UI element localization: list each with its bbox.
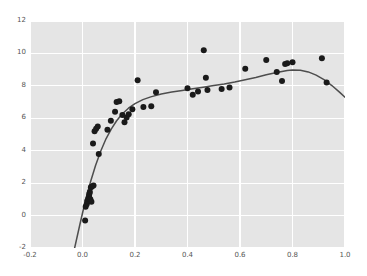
data-point [324, 80, 330, 86]
x-axis-tick-label: 0.6 [220, 252, 260, 259]
y-axis-tick-label: 12 [2, 17, 26, 24]
x-axis-tick-label: 0.0 [63, 252, 103, 259]
x-axis-tick-label: 0.2 [115, 252, 155, 259]
data-point [185, 85, 191, 91]
data-point [108, 118, 114, 124]
data-point [112, 109, 118, 115]
data-point [227, 84, 233, 90]
data-point [190, 92, 196, 98]
data-point [116, 98, 122, 104]
data-point [290, 59, 296, 65]
data-point [96, 151, 102, 157]
data-point [90, 140, 96, 146]
data-point [95, 123, 101, 129]
scatter-plot-figure: -2024681012 -0.20.00.20.40.60.81.0 [0, 0, 367, 276]
y-axis-tick-label: -2 [2, 244, 26, 251]
data-point [274, 69, 280, 75]
y-axis-tick-label: 4 [2, 147, 26, 154]
data-point [279, 78, 285, 84]
data-point [203, 75, 209, 81]
data-point [82, 217, 88, 223]
data-point [148, 103, 154, 109]
data-point [319, 55, 325, 61]
data-point [201, 47, 207, 53]
data-point [204, 87, 210, 93]
data-points-layer [30, 21, 345, 248]
data-point [263, 57, 269, 63]
data-point [129, 106, 135, 112]
x-axis-tick-label: 1.0 [325, 252, 365, 259]
y-axis-tick-label: 2 [2, 179, 26, 186]
data-point [284, 60, 290, 66]
data-point [104, 127, 110, 133]
x-axis-tick-label: 0.4 [168, 252, 208, 259]
data-point [135, 77, 141, 83]
data-point [219, 86, 225, 92]
y-axis-tick-label: 10 [2, 49, 26, 56]
y-axis-tick-label: 6 [2, 114, 26, 121]
data-point [195, 89, 201, 95]
data-point [242, 66, 248, 72]
data-point [91, 183, 97, 189]
data-point [153, 89, 159, 95]
x-axis-tick-label: -0.2 [10, 252, 50, 259]
y-axis-tick-label: 8 [2, 82, 26, 89]
data-point [88, 199, 94, 205]
data-point [140, 104, 146, 110]
x-axis-tick-label: 0.8 [273, 252, 313, 259]
data-point [126, 111, 132, 117]
plot-area [30, 21, 345, 248]
y-axis-tick-label: 0 [2, 212, 26, 219]
